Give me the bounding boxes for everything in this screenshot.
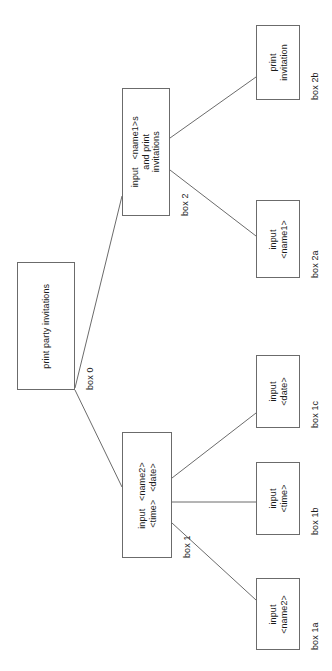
- node-text-box1a: input <name2>: [267, 595, 288, 634]
- node-box0[interactable]: print party invitations: [17, 262, 75, 390]
- node-label-box2b: box 2b: [310, 72, 320, 100]
- node-box1b[interactable]: input <time>: [256, 462, 300, 535]
- node-label-box2a: box 2a: [310, 250, 320, 278]
- node-text-box2: input <name1>s and print invitations: [130, 116, 162, 187]
- node-label-box0: box 0: [85, 367, 95, 390]
- edge-box2-box2b: [170, 77, 256, 138]
- node-text-box2b: print invitation: [268, 44, 289, 81]
- edge-box0-box2: [75, 196, 122, 388]
- node-box1[interactable]: input <name2> <time> <date>: [122, 432, 172, 558]
- node-label-box1b: box 1b: [310, 507, 320, 535]
- node-box2a[interactable]: input <name1>: [256, 200, 300, 278]
- node-box1c[interactable]: input <date>: [256, 355, 300, 428]
- diagram-canvas: print party invitationsbox 0input <name1…: [0, 0, 332, 671]
- node-text-box1b: input <time>: [268, 484, 289, 512]
- node-text-box2a: input <name1>: [267, 220, 288, 259]
- node-label-box1: box 1: [182, 535, 192, 558]
- node-text-box1: input <name2> <time> <date>: [137, 462, 158, 529]
- edge-box1-box1c: [172, 413, 256, 478]
- node-text-box1c: input <date>: [267, 377, 288, 406]
- node-box1a[interactable]: input <name2>: [256, 578, 300, 650]
- node-label-box1c: box 1c: [310, 401, 320, 428]
- node-box2b[interactable]: print invitation: [256, 25, 300, 100]
- node-label-box2: box 2: [180, 193, 190, 216]
- edge-box0-box1: [75, 390, 122, 487]
- node-box2[interactable]: input <name1>s and print invitations: [122, 88, 170, 216]
- node-text-box0: print party invitations: [41, 284, 52, 369]
- node-label-box1a: box 1a: [310, 622, 320, 650]
